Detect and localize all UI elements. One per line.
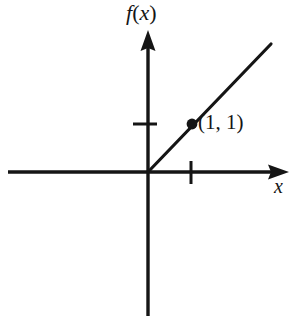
x-axis-label: x <box>274 176 283 196</box>
function-graph-figure: f(x) x (1, 1) <box>0 0 297 323</box>
function-line <box>148 44 271 172</box>
graph-canvas <box>0 0 297 323</box>
y-axis-label: f(x) <box>126 2 157 24</box>
data-point-marker <box>187 119 198 130</box>
data-point-label: (1, 1) <box>198 112 244 133</box>
y-axis-label-paren-close: ) <box>149 0 156 25</box>
y-axis-arrowhead <box>141 30 156 51</box>
y-axis-label-x: x <box>139 0 149 25</box>
